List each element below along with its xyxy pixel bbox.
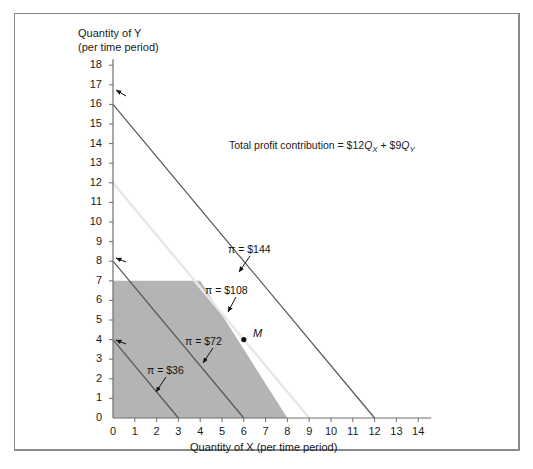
y-tick-label-3: 3 — [80, 352, 102, 364]
x-tick-label-4: 4 — [191, 425, 209, 437]
x-tick-label-8: 8 — [278, 425, 296, 437]
y-tick-label-12: 12 — [80, 176, 102, 188]
objective-function-label: Total profit contribution = $12QX + $9QY — [229, 139, 415, 154]
y-tick-label-14: 14 — [80, 137, 102, 149]
objective-mid: + $9 — [378, 139, 402, 151]
x-tick-label-3: 3 — [169, 425, 187, 437]
data-points-group — [241, 337, 246, 342]
y-tick-label-0: 0 — [80, 411, 102, 423]
objective-prefix: Total profit contribution = $12 — [229, 139, 364, 151]
optimal-point-label: M — [253, 327, 262, 339]
y-tick-label-16: 16 — [80, 97, 102, 109]
y-tick-label-8: 8 — [80, 254, 102, 266]
optimal-point-M — [241, 337, 246, 342]
y-tick-label-5: 5 — [80, 313, 102, 325]
y-tick-label-15: 15 — [80, 117, 102, 129]
x-tick-label-7: 7 — [257, 425, 275, 437]
feasible-region — [113, 281, 287, 418]
y-tick-label-1: 1 — [80, 391, 102, 403]
x-tick-label-13: 13 — [387, 425, 405, 437]
x-tick-label-9: 9 — [300, 425, 318, 437]
x-tick-label-12: 12 — [366, 425, 384, 437]
y-tick-label-9: 9 — [80, 235, 102, 247]
leader-arrow-y16 — [116, 90, 126, 96]
isoprofit-label-36: π = $36 — [147, 364, 184, 376]
y-tick-label-4: 4 — [80, 333, 102, 345]
x-tick-label-14: 14 — [409, 425, 427, 437]
y-tick-label-10: 10 — [80, 215, 102, 227]
y-tick-label-7: 7 — [80, 274, 102, 286]
y-tick-label-17: 17 — [80, 78, 102, 90]
x-axis-title: Quantity of X (per time period) — [190, 440, 337, 454]
x-tick-label-0: 0 — [104, 425, 122, 437]
y-tick-label-13: 13 — [80, 156, 102, 168]
x-tick-label-11: 11 — [344, 425, 362, 437]
isoprofit-label-108: π = $108 — [205, 284, 248, 296]
leader-arrow-144 — [239, 256, 250, 272]
y-axis-title: Quantity of Y(per time period) — [78, 26, 159, 54]
figure-container: Quantity of Y(per time period) Quantity … — [0, 0, 533, 469]
isoprofit-label-72: π = $72 — [185, 335, 222, 347]
y-tick-label-18: 18 — [80, 58, 102, 70]
x-tick-label-2: 2 — [148, 425, 166, 437]
y-tick-label-6: 6 — [80, 293, 102, 305]
leader-arrow-108 — [228, 297, 236, 312]
y-tick-label-2: 2 — [80, 372, 102, 384]
x-tick-label-6: 6 — [235, 425, 253, 437]
x-tick-label-1: 1 — [126, 425, 144, 437]
y-tick-label-11: 11 — [80, 195, 102, 207]
x-tick-label-5: 5 — [213, 425, 231, 437]
leader-arrow-y8 — [116, 258, 126, 262]
isoprofit-label-144: π = $144 — [228, 243, 271, 255]
x-tick-label-10: 10 — [322, 425, 340, 437]
feasible-region-group — [113, 281, 287, 418]
objective-sub2: Y — [409, 145, 414, 154]
